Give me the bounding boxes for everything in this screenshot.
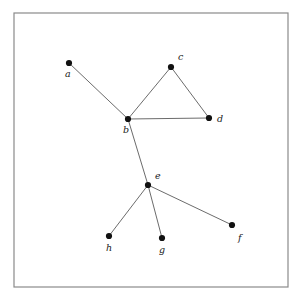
node-label-c: c	[178, 51, 184, 62]
node-label-g: g	[159, 244, 165, 255]
graph-node-e	[145, 182, 151, 188]
graph-node-c	[168, 64, 174, 70]
figure-root: abcdefgh	[0, 0, 303, 302]
graph-node-h	[106, 233, 112, 239]
graph-node-d	[206, 115, 212, 121]
graph-node-g	[159, 235, 165, 241]
graph-node-b	[125, 116, 131, 122]
node-label-a: a	[65, 68, 71, 79]
node-label-b: b	[123, 124, 129, 135]
graph-canvas: abcdefgh	[0, 0, 303, 302]
node-label-h: h	[106, 242, 112, 253]
node-label-e: e	[155, 170, 161, 181]
node-label-d: d	[217, 113, 223, 124]
figure-border	[14, 13, 288, 287]
graph-node-a	[66, 60, 72, 66]
graph-node-f	[229, 222, 235, 228]
